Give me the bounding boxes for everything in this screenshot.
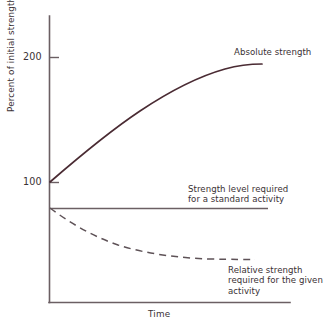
absolute-strength-curve [50, 64, 262, 182]
standard-activity-annotation: Strength level required for a standard a… [188, 184, 288, 205]
relative-strength-annotation: Relative strength required for the given… [228, 265, 323, 296]
relative-strength-curve [50, 208, 255, 260]
x-axis-label: Time [148, 309, 170, 319]
y-axis-label: Percent of initial strength [6, 0, 16, 112]
y-tick-label-200: 200 [23, 51, 42, 62]
absolute-strength-annotation: Absolute strength [234, 47, 311, 57]
strength-over-time-chart: 200 100 Percent of initial strength Time… [0, 0, 327, 331]
y-tick-label-100: 100 [23, 176, 42, 187]
